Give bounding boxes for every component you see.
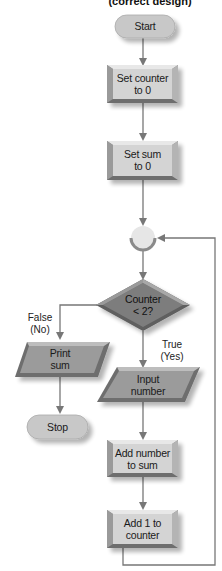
- add-one-line2: counter: [107, 529, 178, 541]
- add-number-line1: Add number: [107, 447, 178, 459]
- true-line1: True: [152, 339, 192, 351]
- add-number-label: Add number to sum: [107, 447, 178, 471]
- input-number-line2: number: [112, 385, 184, 397]
- decision-line2: < 2?: [110, 305, 176, 317]
- set-sum-label: Set sum to 0: [107, 148, 178, 172]
- decision-label: Counter < 2?: [110, 293, 176, 317]
- set-counter-line1: Set counter: [107, 72, 178, 84]
- set-sum-line2: to 0: [107, 160, 178, 172]
- true-line2: (Yes): [152, 351, 192, 363]
- false-line1: False: [22, 312, 58, 324]
- set-counter-line2: to 0: [107, 84, 178, 96]
- input-number-line1: Input: [112, 373, 184, 385]
- print-sum-line2: sum: [22, 359, 98, 371]
- input-number-label: Input number: [112, 373, 184, 397]
- start-label: Start: [115, 20, 175, 32]
- set-sum-line1: Set sum: [107, 148, 178, 160]
- loop-connector-circle: [131, 226, 155, 250]
- set-counter-label: Set counter to 0: [107, 72, 178, 96]
- false-line2: (No): [22, 324, 58, 336]
- decision-line1: Counter: [110, 293, 176, 305]
- stop-label: Stop: [27, 421, 88, 433]
- add-number-line2: to sum: [107, 459, 178, 471]
- print-sum-line1: Print: [22, 347, 98, 359]
- diagram-title: (correct design): [95, 0, 205, 7]
- add-one-label: Add 1 to counter: [107, 517, 178, 541]
- false-branch-label: False (No): [22, 312, 58, 336]
- add-one-line1: Add 1 to: [107, 517, 178, 529]
- print-sum-label: Print sum: [22, 347, 98, 371]
- true-branch-label: True (Yes): [152, 339, 192, 363]
